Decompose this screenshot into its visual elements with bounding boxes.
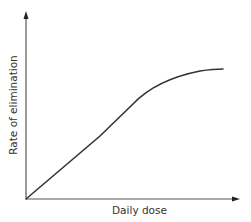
chart-canvas	[0, 0, 251, 222]
elimination-curve	[26, 69, 223, 199]
y-axis-label: Rate of elimination	[7, 55, 19, 155]
x-axis-label: Daily dose	[0, 204, 251, 216]
y-axis-arrow-icon	[24, 11, 29, 19]
x-axis-arrow-icon	[232, 197, 240, 202]
